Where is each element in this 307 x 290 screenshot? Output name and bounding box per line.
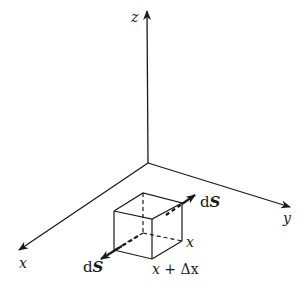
ds-label-lower-left: dS <box>83 260 103 275</box>
face-label-x-plus-dx: x + Δx <box>152 262 199 276</box>
z-axis <box>147 11 148 163</box>
x-axis <box>19 163 148 250</box>
surface-normal-arrows <box>101 195 195 259</box>
cube-hidden-edges <box>114 193 182 250</box>
y-axis-label: y <box>283 211 291 225</box>
ds-arrow-lower-left-hidden <box>122 236 138 246</box>
ds-label-upper-right: dS <box>200 195 220 210</box>
face-label-x: x <box>186 235 194 249</box>
cube-edge <box>152 241 182 259</box>
cube-edge <box>114 250 152 259</box>
ds-arrow-upper-right-hidden <box>166 204 182 215</box>
volume-element-cube <box>114 193 182 259</box>
ds-arrow-upper-right <box>182 195 195 204</box>
axes <box>19 11 290 250</box>
x-axis-label: x <box>19 256 27 270</box>
ds-arrow-lower-left <box>101 246 122 259</box>
volume-element-diagram: z x y x x + Δx dS dS <box>0 0 307 290</box>
diagram-canvas <box>0 0 307 290</box>
z-axis-label: z <box>131 10 138 24</box>
cube-top-face <box>114 193 182 219</box>
